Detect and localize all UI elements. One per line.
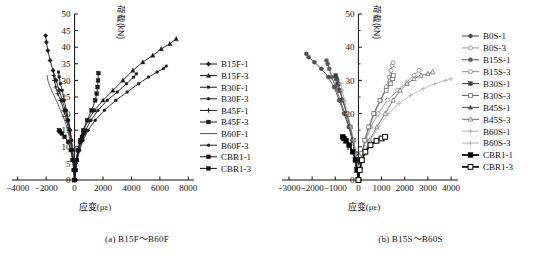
data-point-marker (57, 71, 60, 74)
plot-area-b: −3000−2000−10000100020003000400001020304… (274, 0, 547, 222)
data-point-marker (85, 118, 89, 122)
data-point-marker (207, 167, 211, 171)
legend-label-B60S-3[interactable]: B60S-3 (483, 138, 511, 148)
y-tick-label: 5 (66, 159, 71, 169)
data-point-marker (69, 148, 73, 152)
data-point-marker (206, 62, 210, 66)
data-point-marker (95, 92, 99, 96)
legend-label-B15S-1[interactable]: B15S-1 (483, 55, 511, 65)
data-point-marker (162, 67, 165, 70)
data-point-marker (137, 82, 140, 85)
legend-label-CBR1-3[interactable]: CBR1-3 (221, 164, 252, 174)
legend-label-B45S-3[interactable]: B45S-3 (483, 115, 511, 125)
data-point-marker (469, 58, 473, 62)
data-point-marker (356, 178, 361, 183)
data-point-marker (165, 65, 168, 68)
data-point-marker (46, 48, 50, 52)
chart-svg-a: −4000−2000020004000600080000510152025303… (0, 0, 274, 222)
data-point-marker (388, 82, 392, 86)
data-point-marker (357, 168, 362, 173)
data-point-marker (73, 168, 77, 172)
data-point-marker (372, 112, 376, 116)
y-tick-label: 0 (350, 175, 355, 185)
x-tick-label: 4000 (122, 183, 141, 193)
y-axis-label: 荷载(kN) (116, 5, 126, 39)
data-point-marker (90, 108, 94, 112)
legend-label-B15F-1[interactable]: B15F-1 (221, 59, 249, 69)
legend-label-B30F-3[interactable]: B30F-3 (221, 94, 249, 104)
legend-label-B60F-1[interactable]: B60F-1 (221, 129, 249, 139)
x-tick-label: 2000 (396, 183, 415, 193)
legend: B0S-1B0S-3B15S-1B15S-3B30S-1B30S-3B45S-1… (462, 31, 514, 172)
data-point-marker (89, 119, 92, 122)
y-tick-label: 45 (62, 26, 72, 36)
x-tick-label: 6000 (151, 183, 170, 193)
x-axis-label: 应变(με) (79, 201, 112, 212)
data-point-marker (383, 134, 388, 139)
legend-label-CBR1-1[interactable]: CBR1-1 (483, 150, 513, 160)
data-point-marker (334, 74, 338, 78)
data-point-marker (327, 67, 331, 71)
legend-label-B0S-1[interactable]: B0S-1 (483, 31, 506, 41)
data-point-marker (421, 86, 426, 91)
data-point-marker (312, 60, 316, 64)
data-point-marker (391, 61, 395, 65)
data-point-marker (350, 149, 355, 154)
data-point-marker (96, 85, 100, 89)
y-tick-label: 30 (345, 76, 355, 86)
data-point-marker (132, 76, 135, 79)
data-point-marker (417, 68, 421, 72)
data-point-marker (340, 134, 345, 139)
x-tick-label: 1000 (373, 183, 392, 193)
data-point-marker (469, 82, 473, 86)
legend-label-B15S-3[interactable]: B15S-3 (483, 67, 511, 77)
legend-label-CBR1-3[interactable]: CBR1-3 (483, 162, 514, 172)
figure-container: −4000−2000020004000600080000510152025303… (0, 0, 547, 254)
data-point-marker (363, 138, 367, 142)
data-point-marker (391, 74, 395, 78)
series-B30F-3 (73, 72, 138, 181)
data-point-marker (207, 86, 210, 89)
data-point-marker (468, 153, 473, 158)
legend-label-CBR1-1[interactable]: CBR1-1 (221, 152, 251, 162)
legend-label-B60S-1[interactable]: B60S-1 (483, 127, 511, 137)
data-point-marker (468, 165, 473, 170)
data-point-marker (389, 68, 393, 72)
series-B60S-3 (356, 76, 453, 182)
data-point-marker (61, 89, 64, 92)
legend-label-B45S-1[interactable]: B45S-1 (483, 103, 511, 113)
legend-label-B60F-3[interactable]: B60F-3 (221, 141, 249, 151)
x-tick-label: 3000 (419, 183, 438, 193)
data-point-marker (48, 58, 52, 62)
data-point-marker (374, 138, 379, 143)
legend-label-B45F-1[interactable]: B45F-1 (221, 106, 249, 116)
data-point-marker (51, 68, 55, 72)
legend-label-B45F-3[interactable]: B45F-3 (221, 117, 249, 127)
legend-label-B0S-3[interactable]: B0S-3 (483, 43, 507, 53)
series-line (75, 73, 99, 180)
legend-label-B30S-1[interactable]: B30S-1 (483, 79, 511, 89)
legend-label-B30S-3[interactable]: B30S-3 (483, 91, 511, 101)
data-point-marker (353, 158, 358, 163)
data-point-marker (76, 148, 80, 152)
data-point-marker (114, 99, 117, 102)
data-point-marker (324, 58, 328, 62)
data-point-marker (469, 94, 473, 98)
data-point-marker (103, 109, 106, 112)
chart-panel-b: −3000−2000−10000100020003000400001020304… (274, 0, 547, 254)
data-point-marker (468, 129, 473, 134)
data-point-marker (97, 109, 100, 112)
legend-label-B30F-1[interactable]: B30F-1 (221, 83, 249, 93)
data-point-marker (57, 128, 61, 132)
y-tick-label: 40 (62, 42, 72, 52)
data-point-marker (87, 129, 90, 132)
series-B15S-1 (324, 58, 360, 182)
data-point-marker (58, 76, 61, 79)
data-point-marker (419, 73, 423, 77)
data-point-marker (74, 158, 78, 162)
data-point-marker (468, 141, 473, 146)
chart-panel-a: −4000−2000020004000600080000510152025303… (0, 0, 274, 254)
data-point-marker (135, 72, 138, 75)
x-tick-label: −2000 (301, 183, 325, 193)
legend-label-B15F-3[interactable]: B15F-3 (221, 71, 249, 81)
